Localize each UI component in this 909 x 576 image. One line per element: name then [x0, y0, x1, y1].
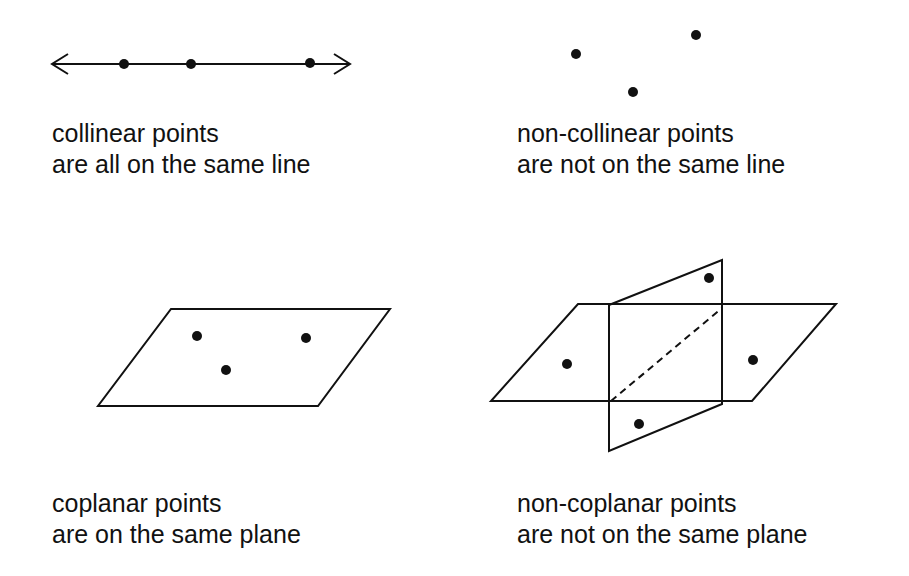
point	[748, 355, 758, 365]
collinear-title: collinear points	[52, 118, 310, 149]
coplanar-title: coplanar points	[52, 488, 301, 519]
coplanar-points	[192, 331, 311, 375]
plane	[98, 309, 390, 406]
point	[634, 419, 644, 429]
non-collinear-caption: non-collinear points are not on the same…	[517, 118, 785, 180]
coplanar-subtitle: are on the same plane	[52, 519, 301, 550]
non-coplanar-points	[562, 273, 758, 429]
point	[691, 30, 701, 40]
horizontal-plane	[491, 304, 836, 401]
point	[221, 365, 231, 375]
point	[704, 273, 714, 283]
point	[119, 59, 129, 69]
point	[628, 87, 638, 97]
point	[305, 58, 315, 68]
point	[301, 333, 311, 343]
non-collinear-figure	[571, 30, 701, 97]
non-collinear-subtitle: are not on the same line	[517, 149, 785, 180]
non-coplanar-subtitle: are not on the same plane	[517, 519, 807, 550]
point	[192, 331, 202, 341]
point	[186, 59, 196, 69]
vertical-plane	[609, 260, 722, 451]
coplanar-figure	[98, 309, 390, 406]
coplanar-caption: coplanar points are on the same plane	[52, 488, 301, 550]
non-collinear-points	[571, 30, 701, 97]
point	[562, 359, 572, 369]
non-coplanar-caption: non-coplanar points are not on the same …	[517, 488, 807, 550]
non-collinear-title: non-collinear points	[517, 118, 785, 149]
non-coplanar-figure	[491, 260, 836, 451]
collinear-subtitle: are all on the same line	[52, 149, 310, 180]
collinear-figure	[52, 54, 350, 74]
intersection-line-dashed	[611, 308, 722, 401]
non-coplanar-title: non-coplanar points	[517, 488, 807, 519]
point	[571, 49, 581, 59]
collinear-caption: collinear points are all on the same lin…	[52, 118, 310, 180]
